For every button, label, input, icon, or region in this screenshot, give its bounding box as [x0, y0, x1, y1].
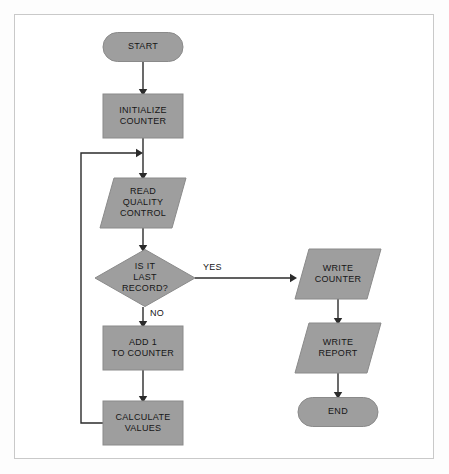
node-label: COUNTER [315, 274, 362, 284]
node-label: WRITE [323, 263, 354, 273]
node-end[interactable]: END [298, 398, 378, 427]
node-label: REPORT [318, 348, 357, 358]
node-label: START [128, 41, 158, 51]
edge-add-to-calculate [139, 370, 147, 403]
flowchart-svg: YESNO STARTINITIALIZECOUNTERREADQUALITYC… [0, 0, 449, 474]
edge-decision-yes-to-write-counter: YES [195, 262, 297, 282]
flowchart-canvas: YESNO STARTINITIALIZECOUNTERREADQUALITYC… [0, 0, 449, 474]
edge-label-yes: YES [203, 262, 222, 272]
node-label: INITIALIZE [119, 105, 167, 115]
node-initialize_counter[interactable]: INITIALIZECOUNTER [103, 94, 183, 138]
edge-decision-no-to-add: NO [139, 307, 164, 328]
node-label: TO COUNTER [112, 348, 175, 358]
node-calculate_values[interactable]: CALCULATEVALUES [103, 401, 183, 445]
node-label: QUALITY [123, 197, 164, 207]
node-label: LAST [133, 272, 157, 282]
node-label: RECORD? [122, 283, 168, 293]
edge-read-to-decision [139, 228, 147, 252]
node-start[interactable]: START [103, 33, 183, 62]
arrowhead-icon [136, 149, 143, 157]
node-is_it_last_record[interactable]: IS ITLASTRECORD? [95, 250, 195, 307]
node-label: WRITE [323, 337, 354, 347]
edge-write-counter-to-write-report [334, 299, 342, 325]
node-add_1_to_counter[interactable]: ADD 1TO COUNTER [103, 326, 183, 370]
node-read_quality_control[interactable]: READQUALITYCONTROL [100, 178, 186, 228]
node-label: VALUES [125, 423, 162, 433]
edge-initialize-to-read [139, 138, 147, 180]
node-label: CALCULATE [115, 412, 170, 422]
node-label: IS IT [135, 261, 156, 271]
node-label: ADD 1 [129, 337, 157, 347]
node-label: READ [130, 186, 156, 196]
node-label: CONTROL [120, 208, 166, 218]
edge-label-no: NO [150, 308, 164, 318]
node-label: COUNTER [120, 116, 167, 126]
node-label: END [328, 406, 348, 416]
edge-write-report-to-end [334, 373, 342, 399]
arrowhead-icon [290, 274, 297, 282]
node-write_report[interactable]: WRITEREPORT [295, 323, 381, 373]
node-write_counter[interactable]: WRITECOUNTER [295, 249, 381, 299]
edge-start-to-initialize [139, 62, 147, 96]
